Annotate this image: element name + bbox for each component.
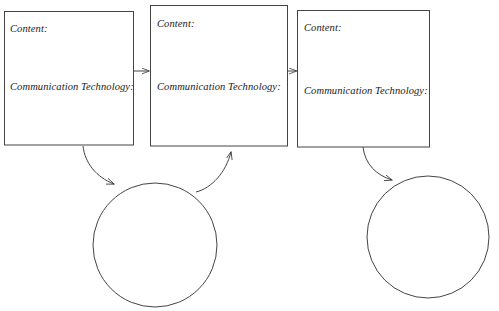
process-circle-1[interactable] bbox=[93, 183, 217, 307]
arrow-box3-to-circle2 bbox=[363, 147, 392, 180]
box-3-content-label: Content: bbox=[304, 23, 342, 34]
diagram-vector-layer bbox=[0, 0, 499, 311]
box-2-content-label: Content: bbox=[157, 19, 195, 30]
diagram-canvas: Content: Communication Technology: Conte… bbox=[0, 0, 499, 311]
box-1-content-label: Content: bbox=[10, 24, 48, 35]
box-3-communication-technology-label: Communication Technology: bbox=[304, 86, 428, 97]
box-2-communication-technology-label: Communication Technology: bbox=[157, 82, 281, 93]
arrow-circle1-to-box2 bbox=[196, 152, 231, 192]
arrow-box1-to-circle1 bbox=[83, 146, 114, 184]
box-1-communication-technology-label: Communication Technology: bbox=[10, 82, 134, 93]
process-circle-2[interactable] bbox=[367, 176, 489, 298]
